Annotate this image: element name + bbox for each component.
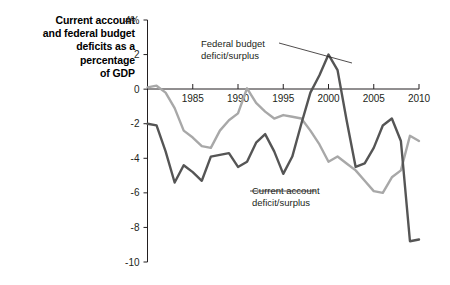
x-axis-tick-label: 1990 [227,93,250,104]
y-axis-tick-label: -6 [131,187,140,198]
chart-plot-area: 4%20-2-4-6-8-10 198519901995200020052010 [0,0,450,285]
x-axis-tick-label: 1985 [182,93,205,104]
y-axis-tick-label: -10 [125,257,140,268]
chart-figure: Current account and federal budget defic… [0,0,450,285]
x-axis-tick-label: 2000 [317,93,340,104]
y-axis-tick-label: 4% [125,15,140,26]
x-axis-tick-label: 2010 [408,93,431,104]
x-axis-ticks: 198519901995200020052010 [182,84,431,104]
y-axis-tick-label: -4 [131,153,140,164]
y-axis-tick-label: 0 [134,84,140,95]
annotation-leader-lines [250,43,352,191]
chart-series-group [148,55,420,242]
chart-axes [148,20,420,262]
x-axis-tick-label: 2005 [363,93,386,104]
y-axis-tick-label: -2 [131,118,140,129]
leader-line-federal [279,43,352,63]
y-axis-ticks: 4%20-2-4-6-8-10 [125,15,147,268]
y-axis-tick-label: -8 [131,222,140,233]
y-axis-tick-label: 2 [134,49,140,60]
x-axis-tick-label: 1995 [272,93,295,104]
chart-series-line [148,55,420,242]
